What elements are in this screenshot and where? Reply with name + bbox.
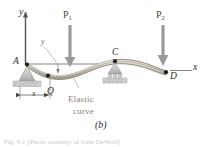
y-axis-label: y xyxy=(19,7,23,17)
point-label-a: A xyxy=(13,57,19,67)
point-label-c: C xyxy=(112,48,118,58)
load-label-p2-text: P xyxy=(156,9,162,20)
node-dot-q xyxy=(46,74,50,78)
load-label-p1-sub: 1 xyxy=(69,14,72,21)
point-label-d: D xyxy=(170,72,177,82)
x-axis-label: x xyxy=(193,62,197,72)
load-arrow-p1-head xyxy=(65,57,76,67)
elastic-curve-label-line2: curve xyxy=(73,107,94,116)
load-label-p1-text: P xyxy=(63,9,69,20)
point-label-q: Q xyxy=(47,87,54,97)
load-label-p2-sub: 2 xyxy=(162,14,165,21)
elastic-curve-label-line1: Elastic xyxy=(68,95,94,104)
figure-caption: (b) xyxy=(95,120,107,130)
node-dot-d xyxy=(164,70,168,74)
load-label-p2: P2 xyxy=(156,10,165,20)
figure-footer-text: Fig. 9.1 (Photo courtesy of John DeWolf) xyxy=(4,138,202,145)
load-label-p1: P1 xyxy=(63,10,72,20)
beam-elastic-curve-figure: y x A Q C D P1 P2 y x Elastic curve (b) … xyxy=(0,0,206,147)
deflection-leader xyxy=(44,47,57,64)
load-arrow-p2 xyxy=(158,25,169,66)
deflection-label-y: y xyxy=(41,38,45,46)
load-arrow-p2-head xyxy=(158,55,169,66)
node-dot-a xyxy=(25,62,29,66)
dimension-label-x: x xyxy=(32,90,36,98)
load-arrow-p1 xyxy=(65,25,76,67)
node-dot-c xyxy=(113,59,117,63)
support-roller-c-rollers xyxy=(108,74,122,78)
deflection-indicator xyxy=(44,47,58,73)
support-roller-c xyxy=(103,63,127,83)
